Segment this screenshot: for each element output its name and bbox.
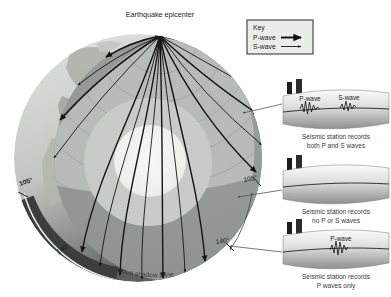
station-2-caption-line-2: no P or S waves	[312, 217, 361, 224]
seismogram-station-1: P-wave S-wave Seismic station records bo…	[283, 79, 389, 149]
key-title: Key	[253, 24, 265, 32]
leader-line-station-3	[230, 246, 282, 252]
station-3-caption-line-1: Seismic station records	[302, 273, 371, 280]
angle-140-right-label: 140°	[215, 236, 230, 245]
p-wave-trace-label: P-wave	[330, 235, 352, 242]
station-2-caption-line-1: Seismic station records	[302, 208, 371, 215]
seismogram-strip	[283, 165, 389, 204]
drum-roll-icon	[287, 158, 292, 170]
drum-roll-icon	[287, 222, 292, 234]
drum-roll-icon	[296, 79, 302, 94]
diagram-canvas: Earthquake epicenter 105° 140° 105° 140°…	[0, 0, 391, 297]
seismic-shadow-zone-diagram: Earthquake epicenter 105° 140° 105° 140°…	[0, 0, 391, 297]
seismogram-station-3: P-wave Seismic station records P waves o…	[283, 219, 389, 290]
key-box: Key P-wave S-wave	[247, 20, 313, 54]
station-1-caption-line-1: Seismic station records	[302, 133, 371, 140]
p-wave-trace-label: P-wave	[299, 95, 321, 102]
drum-roll-icon	[296, 219, 302, 234]
station-1-caption-line-2: both P and S waves	[307, 142, 366, 149]
s-wave-trace-label: S-wave	[338, 94, 360, 101]
drum-roll-icon	[287, 82, 292, 94]
seismogram-station-2: Seismic station records no P or S waves	[283, 155, 389, 224]
key-p-wave-label: P-wave	[253, 34, 276, 41]
key-s-wave-label: S-wave	[253, 43, 276, 50]
epicenter-label: Earthquake epicenter	[126, 10, 195, 19]
station-3-caption-line-2: P waves only	[317, 282, 356, 290]
